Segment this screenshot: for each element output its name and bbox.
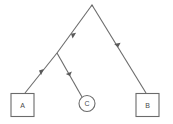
node-b[interactable]: B [136, 94, 159, 117]
edge-root-to-junction [57, 5, 92, 53]
diagram-svg: A C B [0, 0, 173, 124]
arrowhead-root-to-junction-icon [71, 33, 76, 39]
node-c-label: C [84, 100, 89, 107]
node-root [91, 4, 93, 6]
diagram-canvas: A C B [0, 0, 173, 124]
node-a-label: A [20, 102, 25, 109]
node-a[interactable]: A [11, 94, 34, 117]
node-c[interactable]: C [79, 96, 95, 112]
node-b-label: B [145, 102, 150, 109]
arrowhead-junction-to-c-icon [66, 71, 72, 76]
arrowheads-group [39, 33, 121, 76]
edges-group [25, 5, 146, 97]
root-point-marker [91, 4, 93, 6]
edge-root-to-b [92, 5, 146, 93]
